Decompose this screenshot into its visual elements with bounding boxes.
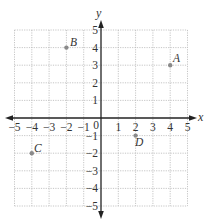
- arrow-up-icon: [98, 20, 104, 28]
- x-axis-label: x: [197, 110, 204, 124]
- arrow-left-icon: [5, 115, 13, 121]
- coordinate-plane: x y −5 −4 −3 −2 −1 0 1 2 3 4 5 5 4 3 2 1…: [0, 0, 206, 223]
- x-tick: −4: [26, 121, 38, 133]
- point-b-label: B: [70, 36, 77, 48]
- x-tick: 1: [115, 121, 121, 133]
- point-a-label: A: [172, 52, 181, 64]
- y-tick: −1: [86, 130, 98, 142]
- point-d: D: [133, 133, 144, 148]
- y-axis: [98, 20, 104, 219]
- y-tick: 3: [92, 59, 98, 71]
- y-tick: −2: [86, 147, 98, 159]
- y-tick: −3: [86, 165, 98, 177]
- x-tick-labels: −5 −4 −3 −2 −1 0 1 2 3 4 5: [8, 119, 190, 133]
- y-tick: −4: [86, 182, 98, 194]
- x-tick: −2: [60, 121, 72, 133]
- point-d-label: D: [134, 136, 144, 148]
- y-axis-label: y: [95, 6, 102, 20]
- y-tick: 5: [92, 24, 98, 36]
- y-tick: 4: [92, 42, 98, 54]
- x-tick: −3: [43, 121, 55, 133]
- y-tick: −5: [86, 200, 98, 212]
- y-tick: 1: [92, 94, 98, 106]
- x-tick: 4: [167, 121, 173, 133]
- point-c-label: C: [34, 142, 42, 154]
- arrow-down-icon: [98, 211, 104, 219]
- x-tick: 3: [150, 121, 156, 133]
- y-tick: 2: [92, 77, 98, 89]
- x-tick: 5: [185, 121, 191, 133]
- arrow-right-icon: [189, 115, 197, 121]
- x-tick: 2: [133, 121, 139, 133]
- x-tick: −5: [8, 121, 20, 133]
